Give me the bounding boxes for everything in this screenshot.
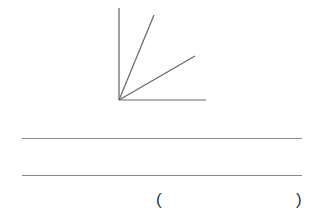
open-paren: ( (156, 190, 162, 210)
answer-line-2 (22, 175, 302, 176)
answer-line-1 (22, 138, 302, 139)
angle-diagram (0, 0, 318, 120)
upper-ray (119, 15, 154, 100)
close-paren: ) (296, 190, 302, 210)
lower-ray (119, 56, 195, 100)
